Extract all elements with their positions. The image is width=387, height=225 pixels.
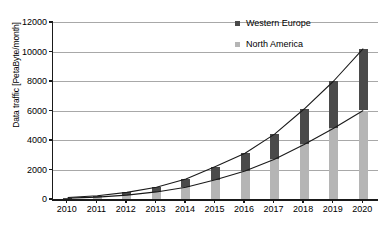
plot-area: 020004000600080001000012000 [52, 22, 378, 199]
y-tick-label: 8000 [27, 76, 47, 86]
x-tick-mark [362, 199, 363, 203]
bar-segment-north-america [211, 180, 220, 199]
x-tick-label: 2016 [234, 204, 254, 214]
y-tick-label: 12000 [22, 17, 47, 27]
bar-segment-north-america [241, 171, 250, 199]
y-tick-label: 6000 [27, 106, 47, 116]
legend-swatch-icon [235, 42, 240, 47]
y-axis-title: Data traffic [PetaByte/month] [11, 0, 21, 165]
x-tick-mark [96, 199, 97, 203]
x-tick-mark [214, 199, 215, 203]
bar-segment-north-america [181, 187, 190, 199]
x-tick-label: 2013 [145, 204, 165, 214]
y-tick-mark [49, 110, 53, 111]
bar-segment-western-europe [359, 49, 368, 111]
x-tick-mark [155, 199, 156, 203]
bar-segment-western-europe [270, 134, 279, 159]
gridline [53, 52, 378, 53]
bar-segment-western-europe [152, 187, 161, 192]
chart-legend: Western EuropeNorth America [235, 18, 311, 60]
x-axis-ticks: 2010201120122013201420152016201720182019… [52, 199, 377, 225]
x-tick-label: 2020 [352, 204, 372, 214]
bar-segment-western-europe [181, 179, 190, 187]
legend-item[interactable]: Western Europe [235, 18, 311, 28]
bar-segment-north-america [300, 144, 309, 199]
legend-item[interactable]: North America [235, 39, 311, 49]
x-tick-mark [302, 199, 303, 203]
y-tick-label: 4000 [27, 135, 47, 145]
x-tick-mark [273, 199, 274, 203]
bar-segment-western-europe [122, 192, 131, 195]
x-tick-label: 2015 [204, 204, 224, 214]
bar-segment-western-europe [241, 153, 250, 171]
y-tick-label: 2000 [27, 165, 47, 175]
legend-item-label: Western Europe [246, 18, 311, 28]
x-tick-mark [332, 199, 333, 203]
x-tick-label: 2010 [57, 204, 77, 214]
bar-segment-western-europe [93, 196, 102, 197]
x-tick-label: 2018 [293, 204, 313, 214]
y-tick-mark [49, 21, 53, 22]
bar-segment-north-america [152, 192, 161, 199]
legend-item-label: North America [246, 39, 303, 49]
x-tick-label: 2017 [264, 204, 284, 214]
bar-segment-western-europe [300, 109, 309, 144]
x-tick-label: 2014 [175, 204, 195, 214]
y-tick-mark [49, 139, 53, 140]
y-tick-label: 0 [42, 194, 47, 204]
x-tick-mark [184, 199, 185, 203]
y-tick-mark [49, 169, 53, 170]
x-tick-label: 2019 [323, 204, 343, 214]
bar-segment-north-america [329, 128, 338, 199]
legend-swatch-icon [235, 21, 240, 26]
bar-segment-north-america [270, 159, 279, 199]
x-tick-mark [243, 199, 244, 203]
x-tick-mark [66, 199, 67, 203]
x-tick-label: 2011 [87, 204, 106, 214]
y-tick-label: 10000 [22, 47, 47, 57]
bar-segment-western-europe [329, 81, 338, 128]
y-tick-mark [49, 51, 53, 52]
gridline [53, 22, 378, 23]
y-tick-mark [49, 80, 53, 81]
bar-segment-western-europe [211, 167, 220, 180]
chart-container: Data traffic [PetaByte/month] 0200040006… [0, 0, 387, 225]
x-tick-label: 2012 [116, 204, 136, 214]
x-tick-mark [125, 199, 126, 203]
bar-segment-north-america [359, 111, 368, 200]
